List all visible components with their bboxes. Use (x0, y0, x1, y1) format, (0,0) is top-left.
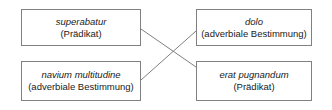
connector-superabatur-to-erat-pugnandum (141, 29, 196, 67)
node-dolo-term: dolo (245, 16, 263, 28)
connector-navium-multitudine-to-dolo (141, 31, 196, 80)
node-dolo: dolo (adverbiale Bestimmung) (196, 9, 312, 46)
node-superabatur-term: superabatur (56, 16, 107, 28)
node-erat-pugnandum-role: (Prädikat) (233, 81, 274, 93)
node-erat-pugnandum-term: erat pugnandum (219, 69, 288, 81)
node-erat-pugnandum: erat pugnandum (Prädikat) (196, 61, 312, 101)
node-navium-multitudine-role: (adverbiale Bestimmung) (28, 81, 134, 93)
node-navium-multitudine-term: navium multitudine (41, 69, 120, 81)
node-navium-multitudine: navium multitudine (adverbiale Bestimmun… (21, 61, 141, 101)
node-superabatur-role: (Prädikat) (60, 28, 101, 40)
node-superabatur: superabatur (Prädikat) (21, 9, 141, 46)
diagram-canvas: superabatur (Prädikat) dolo (adverbiale … (0, 0, 332, 110)
node-dolo-role: (adverbiale Bestimmung) (201, 28, 307, 40)
